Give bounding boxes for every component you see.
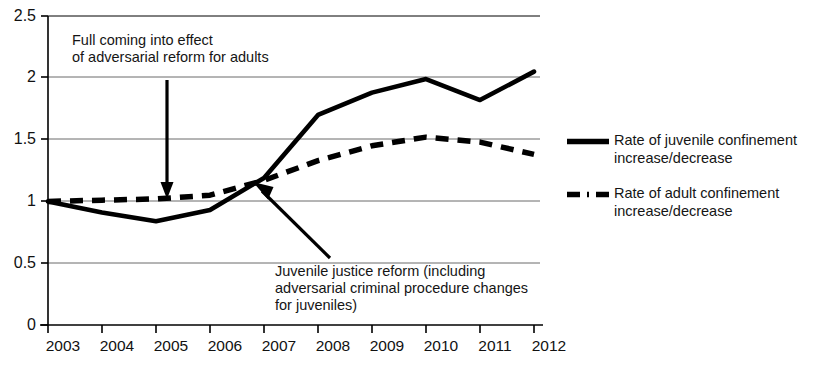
y-tick-label-2-5: 2.5 [0, 8, 36, 24]
y-tick-label-1-5: 1.5 [0, 131, 36, 147]
y-tick-label-1: 1 [0, 193, 36, 209]
x-tick-label-2007: 2007 [251, 338, 307, 354]
legend-label-juvenile: Rate of juvenile confinement increase/de… [614, 132, 797, 167]
legend-entry-adult: Rate of adult confinement increase/decre… [566, 185, 834, 220]
x-tick-label-2005: 2005 [143, 338, 199, 354]
chart-figure: 2.5 2 1.5 1 0.5 0 2003 2004 2005 2006 20… [0, 0, 834, 367]
legend-entry-juvenile: Rate of juvenile confinement increase/de… [566, 132, 834, 167]
x-tick-label-2011: 2011 [467, 338, 523, 354]
annotation-arrow-juvenile-reform [253, 182, 330, 258]
chart-legend: Rate of juvenile confinement increase/de… [566, 132, 834, 238]
annotation-adult-reform-text: Full coming into effect of adversarial r… [72, 32, 269, 66]
x-tick-label-2010: 2010 [413, 338, 469, 354]
x-tick-label-2009: 2009 [359, 338, 415, 354]
y-tick-label-0: 0 [0, 317, 36, 333]
legend-swatch-dashed-icon [566, 186, 610, 203]
annotation-juvenile-reform-text: Juvenile justice reform (including adver… [275, 263, 528, 314]
x-tick-label-2003: 2003 [35, 338, 91, 354]
y-tick-label-2: 2 [0, 69, 36, 85]
x-axis-ticks [48, 325, 534, 333]
x-tick-label-2004: 2004 [89, 338, 145, 354]
legend-label-adult: Rate of adult confinement increase/decre… [614, 185, 779, 220]
x-tick-label-2006: 2006 [197, 338, 253, 354]
y-tick-label-0-5: 0.5 [0, 255, 36, 271]
x-tick-label-2012: 2012 [521, 338, 577, 354]
y-axis-ticks [41, 16, 48, 325]
legend-swatch-solid-icon [566, 133, 610, 150]
x-tick-label-2008: 2008 [305, 338, 361, 354]
